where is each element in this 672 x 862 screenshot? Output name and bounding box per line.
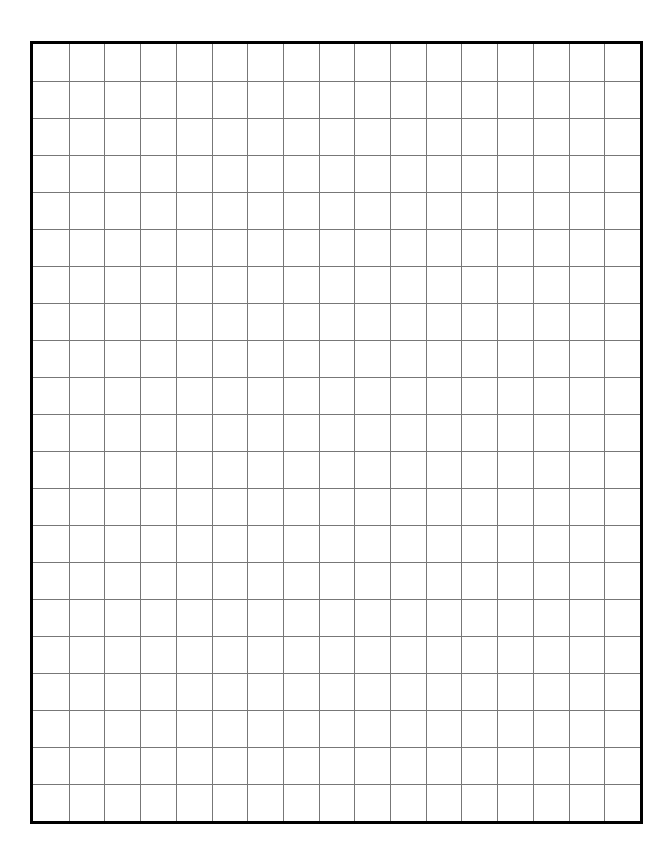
grid-lines bbox=[33, 44, 640, 821]
grid-paper-sheet bbox=[0, 0, 672, 862]
grid-border bbox=[30, 41, 643, 824]
horizontal-grid-lines bbox=[33, 82, 640, 785]
vertical-grid-lines bbox=[70, 44, 605, 821]
